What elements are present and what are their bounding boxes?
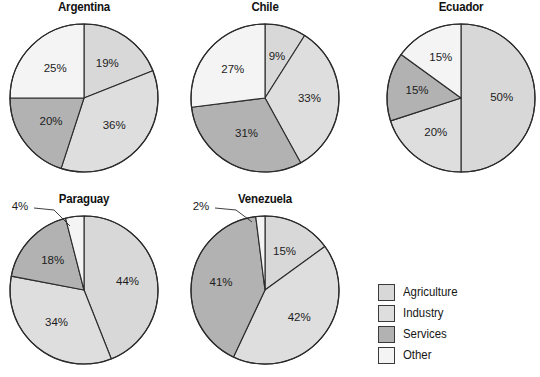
pie-graphic-venezuela: 15%42%41% (175, 190, 355, 377)
slice-value-label: 50% (490, 91, 513, 103)
pie-graphic-ecuador: 50%20%15%15% (371, 0, 540, 188)
legend-label: Services (403, 327, 447, 341)
slice-value-label: 44% (116, 275, 139, 287)
legend-swatch-other (378, 347, 395, 364)
slice-value-label: 42% (288, 311, 311, 323)
slice-value-label: 18% (41, 254, 64, 266)
slice-value-label: 33% (298, 92, 321, 104)
legend-item-industry: Industry (378, 304, 460, 322)
pie-chart-ecuador: Ecuador50%20%15%15% (371, 0, 540, 188)
slice-value-label: 25% (44, 62, 67, 74)
chart-legend: AgricultureIndustryServicesOther (378, 283, 460, 364)
pie-slice-other (10, 24, 84, 98)
legend-label: Agriculture (403, 285, 457, 299)
slice-value-label: 9% (269, 50, 286, 62)
pie-chart-paraguay: Paraguay44%34%18% (0, 190, 174, 377)
legend-label: Other (403, 348, 432, 362)
pie-chart-chile: Chile9%33%31%27% (175, 0, 355, 188)
slice-value-label: 15% (429, 51, 452, 63)
legend-swatch-industry (378, 305, 395, 322)
slice-value-label: 41% (210, 276, 233, 288)
pie-chart-argentina: Argentina19%36%20%25% (0, 0, 174, 188)
pie-graphic-paraguay: 44%34%18% (0, 190, 174, 377)
legend-label: Industry (403, 306, 444, 320)
legend-item-agriculture: Agriculture (378, 283, 460, 301)
legend-item-services: Services (378, 325, 460, 343)
slice-value-label: 31% (235, 127, 258, 139)
pie-graphic-argentina: 19%36%20%25% (0, 0, 174, 188)
legend-swatch-agriculture (378, 284, 395, 301)
legend-swatch-services (378, 326, 395, 343)
slice-value-label: 34% (45, 316, 68, 328)
pie-graphic-chile: 9%33%31%27% (175, 0, 355, 188)
pie-chart-venezuela: Venezuela15%42%41% (175, 190, 355, 377)
slice-value-label: 20% (40, 115, 63, 127)
slice-value-label: 15% (273, 245, 296, 257)
slice-value-label: 20% (424, 126, 447, 138)
slice-value-label: 27% (221, 63, 244, 75)
slice-value-label: 19% (96, 57, 119, 69)
slice-value-label: 15% (406, 84, 429, 96)
legend-item-other: Other (378, 346, 460, 364)
slice-value-label: 36% (103, 119, 126, 131)
